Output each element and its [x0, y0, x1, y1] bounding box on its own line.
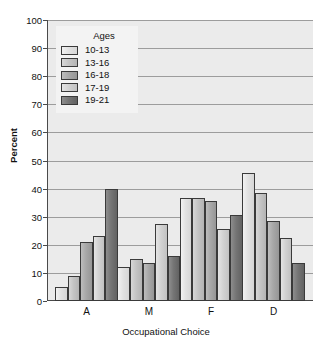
x-tick-label: F: [208, 306, 214, 317]
y-tick-label: 20: [16, 239, 42, 250]
x-tick-label: A: [83, 306, 90, 317]
legend-item[interactable]: 19-21: [61, 95, 133, 105]
y-tick-label: 50: [16, 155, 42, 166]
y-tick-label: 60: [16, 127, 42, 138]
bar: [68, 276, 81, 301]
bar-group: [180, 20, 243, 301]
y-tick-label: 70: [16, 99, 42, 110]
legend-label: 19-21: [85, 95, 109, 105]
legend-label: 17-19: [85, 83, 109, 93]
x-axis-title: Occupational Choice: [0, 326, 332, 337]
legend-swatch: [61, 83, 78, 92]
legend-item[interactable]: 16-18: [61, 70, 133, 80]
legend-item[interactable]: 13-16: [61, 58, 133, 68]
y-tick-label: 100: [16, 15, 42, 26]
y-tick-label: 40: [16, 183, 42, 194]
legend-item[interactable]: 10-13: [61, 45, 133, 55]
y-axis-title: Percent: [8, 111, 19, 181]
legend-item[interactable]: 17-19: [61, 83, 133, 93]
bar-chart: Percent 0102030405060708090100 AMFD Occu…: [0, 0, 332, 346]
bar: [143, 263, 156, 301]
y-tick-label: 30: [16, 211, 42, 222]
bar: [80, 242, 93, 301]
bar: [130, 259, 143, 301]
y-tick-label: 10: [16, 267, 42, 278]
bar: [230, 215, 243, 301]
y-tick-label: 80: [16, 71, 42, 82]
x-tick-label: M: [145, 306, 153, 317]
legend-swatch: [61, 58, 78, 67]
legend: Ages 10-1313-1616-1817-1919-21: [56, 26, 138, 113]
bar: [217, 229, 230, 301]
legend-title: Ages: [75, 30, 133, 41]
legend-swatch: [61, 46, 78, 55]
bar: [55, 287, 68, 301]
bar: [292, 263, 305, 301]
bar: [180, 198, 193, 301]
legend-items: 10-1313-1616-1817-1919-21: [61, 45, 133, 105]
legend-swatch: [61, 96, 78, 105]
legend-label: 13-16: [85, 58, 109, 68]
y-tick-label: 90: [16, 43, 42, 54]
legend-label: 16-18: [85, 70, 109, 80]
bar: [155, 224, 168, 301]
bar: [168, 256, 181, 301]
y-tick-label: 0: [16, 296, 42, 307]
bar: [93, 236, 106, 301]
bar: [242, 173, 255, 301]
bar: [105, 189, 118, 301]
x-tick-label: D: [270, 306, 277, 317]
bar: [117, 267, 130, 301]
legend-label: 10-13: [85, 45, 109, 55]
bar: [255, 193, 268, 301]
bar: [280, 238, 293, 301]
bar: [192, 198, 205, 301]
legend-swatch: [61, 71, 78, 80]
bar: [205, 201, 218, 301]
bar-group: [242, 20, 305, 301]
bar: [267, 221, 280, 301]
